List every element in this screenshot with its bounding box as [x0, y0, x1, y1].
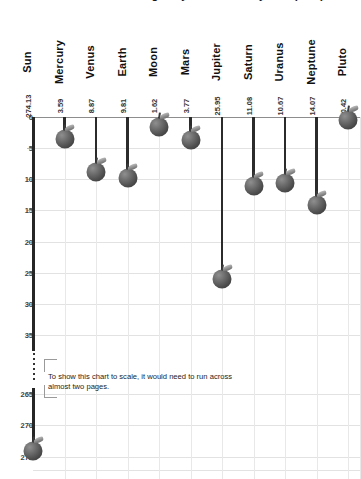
data-marker-apple[interactable] [24, 442, 43, 461]
category-column-uranus[interactable]: Uranus10.67 [277, 0, 293, 110]
category-label: Jupiter [210, 43, 222, 81]
data-marker-apple[interactable] [55, 130, 74, 149]
gridline-horizontal [33, 304, 361, 305]
data-marker-apple[interactable] [244, 177, 263, 196]
category-column-pluto[interactable]: Pluto0.42 [340, 0, 356, 110]
gridline-horizontal [33, 179, 361, 180]
data-marker-apple[interactable] [307, 195, 326, 214]
data-marker-apple[interactable] [181, 131, 200, 150]
gridline-horizontal [33, 425, 361, 426]
gridline-horizontal [33, 394, 361, 395]
category-label: Mercury [53, 40, 65, 84]
data-stem [221, 117, 223, 279]
data-marker-apple[interactable] [276, 174, 295, 193]
category-label: Earth [116, 47, 128, 76]
category-label: Venus [84, 45, 96, 78]
category-label: Uranus [273, 42, 285, 81]
chart-root: Surface gravity of the solar system (m/s… [0, 0, 361, 479]
data-marker-apple[interactable] [150, 118, 169, 137]
gridline-horizontal [33, 273, 361, 274]
gridline-vertical [348, 117, 349, 479]
category-column-jupiter[interactable]: Jupiter25.95 [214, 0, 230, 110]
category-label: Pluto [336, 48, 348, 77]
gridline-horizontal [33, 148, 361, 149]
annotation-text-line-2: almost two pages. [48, 381, 109, 393]
plot-area: 05101520253035265270275To show this char… [0, 110, 361, 479]
gridline-vertical [65, 117, 66, 479]
gridline-horizontal [33, 335, 361, 336]
category-column-earth[interactable]: Earth9.81 [120, 0, 136, 110]
category-column-sun[interactable]: Sun274.13 [25, 0, 41, 110]
category-column-venus[interactable]: Venus8.87 [88, 0, 104, 110]
gridline-vertical [191, 117, 192, 479]
category-column-mars[interactable]: Mars3.77 [183, 0, 199, 110]
category-label: Saturn [242, 44, 254, 80]
data-marker-apple[interactable] [87, 163, 106, 182]
category-label: Mars [179, 49, 191, 75]
y-axis-line-upper [32, 117, 35, 351]
data-marker-apple[interactable] [213, 269, 232, 288]
zero-axis-line [33, 117, 361, 118]
category-column-mercury[interactable]: Mercury3.59 [57, 0, 73, 110]
category-column-saturn[interactable]: Saturn11.08 [246, 0, 262, 110]
category-header-row: Sun274.13Mercury3.59Venus8.87Earth9.81Mo… [0, 0, 361, 110]
category-column-neptune[interactable]: Neptune14.07 [309, 0, 325, 110]
data-marker-apple[interactable] [118, 169, 137, 188]
gridline-horizontal [33, 457, 361, 458]
gridline-horizontal [33, 242, 361, 243]
gridline-horizontal [33, 470, 361, 471]
category-label: Neptune [305, 39, 317, 84]
category-label: Sun [21, 51, 33, 72]
category-label: Moon [147, 47, 159, 77]
axis-break-marker [33, 353, 35, 383]
category-column-moon[interactable]: Moon1.62 [151, 0, 167, 110]
data-marker-apple[interactable] [339, 110, 358, 129]
gridline-vertical [159, 117, 160, 479]
